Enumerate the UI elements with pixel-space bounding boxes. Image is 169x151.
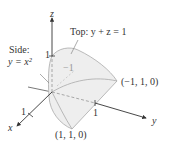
y-tick-label: 1 (93, 108, 98, 118)
z-tick-label: 1 (45, 50, 50, 60)
neg-one-label: −1 (63, 63, 74, 73)
solid-region-diagram: z y x 1 1 1 −1 Top: y + z = 1 Side: y = … (0, 0, 169, 151)
side-leader-line (40, 74, 49, 83)
y-axis (95, 103, 146, 118)
z-axis-label: z (50, 9, 54, 19)
x-axis-label: x (8, 123, 12, 133)
x-tick-label: 1 (21, 107, 26, 117)
top-surface-label: Top: y + z = 1 (70, 27, 126, 37)
point-neg1-1-0-label: (−1, 1, 0) (121, 77, 158, 87)
y-axis-label: y (152, 116, 156, 126)
side-label-line1: Side: (9, 45, 30, 55)
side-label-equation: y = x² (8, 57, 32, 67)
point-1-1-0-label: (1, 1, 0) (55, 130, 87, 140)
